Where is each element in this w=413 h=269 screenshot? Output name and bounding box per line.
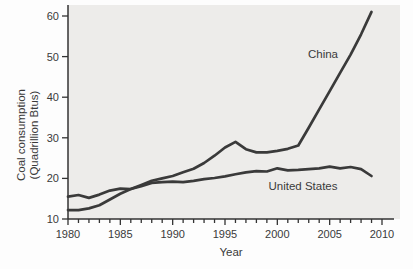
x-tick-label-1980: 1980 [56, 228, 80, 240]
x-tick-label-2000: 2000 [265, 228, 289, 240]
y-tick-label-30: 30 [47, 132, 59, 144]
x-tick-label-1985: 1985 [108, 228, 132, 240]
x-axis-title: Year [219, 246, 242, 258]
plot-area-background [68, 5, 400, 219]
x-tick-label-2010: 2010 [370, 228, 394, 240]
coal-consumption-chart: 1020304050601980198519901995200020052010… [0, 0, 413, 269]
coal-consumption-figure: 1020304050601980198519901995200020052010… [0, 0, 413, 269]
y-tick-label-40: 40 [47, 91, 59, 103]
y-tick-label-10: 10 [47, 213, 59, 225]
y-axis-title-line1: Coal consumption [15, 89, 27, 181]
y-tick-label-20: 20 [47, 172, 59, 184]
x-tick-label-2005: 2005 [317, 228, 341, 240]
x-tick-label-1995: 1995 [213, 228, 237, 240]
x-tick-label-1990: 1990 [160, 228, 184, 240]
y-tick-label-50: 50 [47, 51, 59, 63]
us-series-label: United States [268, 180, 337, 192]
y-axis-title-line2: (Quadrillion Btus) [28, 90, 40, 179]
china-series-label: China [308, 48, 339, 60]
y-tick-label-60: 60 [47, 10, 59, 22]
